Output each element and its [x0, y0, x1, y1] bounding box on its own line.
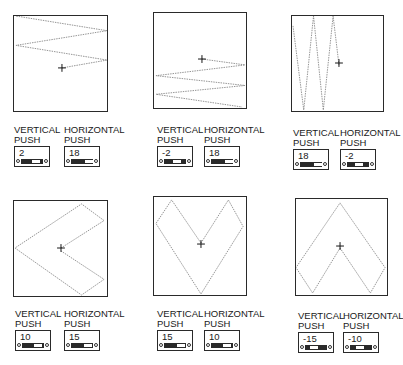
vertical-push-field[interactable]: 2 [14, 146, 50, 167]
vertical-push-value: -15 [303, 334, 317, 344]
horizontal-push-field[interactable]: 18 [64, 146, 100, 167]
display-frame [13, 15, 108, 112]
horizontal-push-value: 15 [69, 332, 80, 342]
horizontal-push-value: -2 [345, 151, 353, 161]
vertical-push-label: VERTICALPUSH [157, 125, 207, 145]
horizontal-push-slider[interactable] [66, 343, 98, 348]
horizontal-push-slider[interactable] [342, 162, 374, 167]
trace-plot [154, 13, 246, 108]
vertical-push-slider[interactable] [16, 159, 48, 164]
crosshair-icon [335, 59, 343, 67]
horizontal-push-field[interactable]: -2 [340, 149, 376, 170]
vertical-push-slider[interactable] [159, 343, 191, 348]
horizontal-push-slider[interactable] [345, 345, 377, 350]
crosshair-icon [57, 244, 65, 252]
display-frame [291, 15, 384, 112]
crosshair-icon [198, 55, 206, 63]
vertical-push-field[interactable]: -15 [298, 332, 334, 353]
vertical-push-label: VERTICALPUSH [157, 309, 207, 329]
horizontal-push-field[interactable]: 10 [204, 330, 240, 351]
vertical-push-field[interactable]: 15 [157, 330, 193, 351]
vertical-push-control: VERTICALPUSH 15 [157, 309, 207, 351]
horizontal-push-control: HORIZONTALPUSH 18 [204, 125, 254, 167]
horizontal-push-control: HORIZONTALPUSH 18 [64, 125, 114, 167]
vertical-push-value: 10 [20, 332, 31, 342]
display-frame [295, 198, 388, 296]
display-frame [13, 200, 108, 297]
vertical-push-slider[interactable] [300, 345, 332, 350]
vertical-push-value: 2 [19, 148, 24, 158]
vertical-push-control: VERTICALPUSH -2 [157, 125, 207, 167]
display-frame [153, 196, 247, 296]
vertical-push-control: VERTICALPUSH -15 [298, 311, 348, 353]
trace-plot [292, 16, 383, 111]
horizontal-push-value: 18 [69, 148, 80, 158]
vertical-push-label: VERTICALPUSH [293, 128, 343, 148]
horizontal-push-label: HORIZONTALPUSH [204, 125, 254, 145]
display-frame [153, 12, 247, 109]
trace-plot [154, 197, 246, 295]
vertical-push-field[interactable]: -2 [157, 146, 193, 167]
vertical-push-slider[interactable] [17, 343, 49, 348]
vertical-push-value: 18 [298, 151, 309, 161]
vertical-push-value: 15 [162, 332, 173, 342]
horizontal-push-label: HORIZONTALPUSH [340, 128, 390, 148]
horizontal-push-slider[interactable] [66, 159, 98, 164]
horizontal-push-field[interactable]: 18 [204, 146, 240, 167]
vertical-push-label: VERTICALPUSH [15, 309, 65, 329]
horizontal-push-control: HORIZONTALPUSH 15 [64, 309, 114, 351]
vertical-push-value: -2 [162, 148, 170, 158]
horizontal-push-value: 10 [209, 332, 220, 342]
horizontal-push-label: HORIZONTALPUSH [204, 309, 254, 329]
trace-plot [14, 16, 107, 111]
vertical-push-control: VERTICALPUSH 10 [15, 309, 65, 351]
horizontal-push-label: HORIZONTALPUSH [64, 309, 114, 329]
trace-plot [296, 199, 387, 295]
horizontal-push-slider[interactable] [206, 343, 238, 348]
crosshair-icon [58, 64, 66, 72]
trace-plot [14, 201, 107, 296]
horizontal-push-field[interactable]: -10 [343, 332, 379, 353]
crosshair-icon [197, 240, 205, 248]
vertical-push-label: VERTICALPUSH [298, 311, 348, 331]
vertical-push-control: VERTICALPUSH 2 [14, 125, 64, 167]
horizontal-push-control: HORIZONTALPUSH -2 [340, 128, 390, 170]
horizontal-push-label: HORIZONTALPUSH [343, 311, 393, 331]
horizontal-push-slider[interactable] [206, 159, 238, 164]
crosshair-icon [336, 242, 344, 250]
vertical-push-slider[interactable] [159, 159, 191, 164]
vertical-push-field[interactable]: 10 [15, 330, 51, 351]
vertical-push-control: VERTICALPUSH 18 [293, 128, 343, 170]
vertical-push-slider[interactable] [295, 162, 327, 167]
vertical-push-label: VERTICALPUSH [14, 125, 64, 145]
vertical-push-field[interactable]: 18 [293, 149, 329, 170]
horizontal-push-value: -10 [348, 334, 362, 344]
horizontal-push-value: 18 [209, 148, 220, 158]
horizontal-push-control: HORIZONTALPUSH -10 [343, 311, 393, 353]
horizontal-push-label: HORIZONTALPUSH [64, 125, 114, 145]
horizontal-push-field[interactable]: 15 [64, 330, 100, 351]
horizontal-push-control: HORIZONTALPUSH 10 [204, 309, 254, 351]
